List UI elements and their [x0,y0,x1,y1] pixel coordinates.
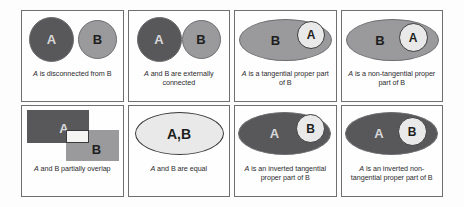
region-a: A [29,17,74,62]
cell-inverted-non-tangential-proper-part: A B A is an inverted non-tangential prop… [341,105,444,197]
region-b-label: B [306,123,315,135]
region-a-label: A [307,29,316,41]
caption-rest: is a non-tangential proper part of B [353,69,435,87]
cell-caption: A is a tangential proper part of B [235,68,336,101]
region-b: B [398,117,427,146]
cell-caption: A is an inverted non-tangential proper p… [342,163,443,196]
region-a-label: A [409,32,418,44]
diagram-canvas: A B [129,11,230,68]
region-b-label: B [375,34,384,47]
caption-rest: is an inverted tangential proper part of… [249,164,326,182]
region-b: B [78,20,117,59]
cell-caption: A is an inverted tangential proper part … [235,163,336,196]
caption-rest: and B are externally connected [149,69,214,87]
overlap-region [66,130,89,143]
cell-caption: A and B are equal [129,163,230,196]
caption-rest: and B partially overlap [39,164,111,173]
caption-text: A is disconnected from B [33,70,111,79]
diagram-canvas: A B [22,106,123,163]
region-a-label: A [154,33,163,46]
caption-text: A and B are externally connected [132,70,227,87]
relations-grid: A B A is disconnected from B A B [21,10,443,197]
diagram-canvas: A B [22,11,123,68]
region-a: A [399,23,428,52]
cell-externally-connected: A B A and B are externally connected [128,10,231,102]
cell-non-tangential-proper-part: B A A is a non-tangential proper part of… [341,10,444,102]
cell-disconnected: A B A is disconnected from B [21,10,124,102]
caption-rest: is a tangential proper part of B [247,69,329,87]
cell-equal: A,B A and B are equal [128,105,231,197]
caption-text: A is a tangential proper part of B [238,70,333,87]
caption-text: A is a non-tangential proper part of B [345,70,440,87]
region-b: B [182,20,221,59]
region-a: A [297,21,325,49]
cell-partially-overlap: A B A and B partially overlap [21,105,124,197]
region-a-label: A [47,33,56,46]
cell-caption: A and B partially overlap [22,163,123,196]
region-a: A [137,17,182,62]
caption-rest: is disconnected from B [38,69,112,78]
caption-text: A and B partially overlap [34,165,111,174]
region-b-label: B [92,143,101,156]
region-b-label: B [196,33,205,46]
caption-rest: and B are equal [155,164,207,173]
region-a-label: A [374,127,383,140]
region-b: B [296,114,325,143]
diagram-canvas: B A [342,11,443,68]
region-b-label: B [93,33,102,46]
diagram-canvas: A B [235,106,336,163]
region-a-label: A [270,127,279,140]
region-b-label: B [408,126,417,138]
cell-caption: A is disconnected from B [22,68,123,101]
caption-text: A is an inverted tangential proper part … [238,165,333,182]
region-ab-label: A,B [167,127,191,141]
caption-text: A is an inverted non-tangential proper p… [345,165,440,182]
diagram-canvas: A,B [129,106,230,163]
caption-text: A and B are equal [150,165,207,174]
cell-caption: A and B are externally connected [129,68,230,101]
diagram-canvas: B A [235,11,336,68]
cell-caption: A is a non-tangential proper part of B [342,68,443,101]
region-ab: A,B [135,112,224,155]
region-b-label: B [271,34,280,47]
rcc8-relations-figure: A B A is disconnected from B A B [0,0,464,207]
caption-rest: is an inverted non-tangential proper par… [351,164,433,182]
cell-tangential-proper-part: B A A is a tangential proper part of B [234,10,337,102]
cell-inverted-tangential-proper-part: A B A is an inverted tangential proper p… [234,105,337,197]
diagram-canvas: A B [342,106,443,163]
